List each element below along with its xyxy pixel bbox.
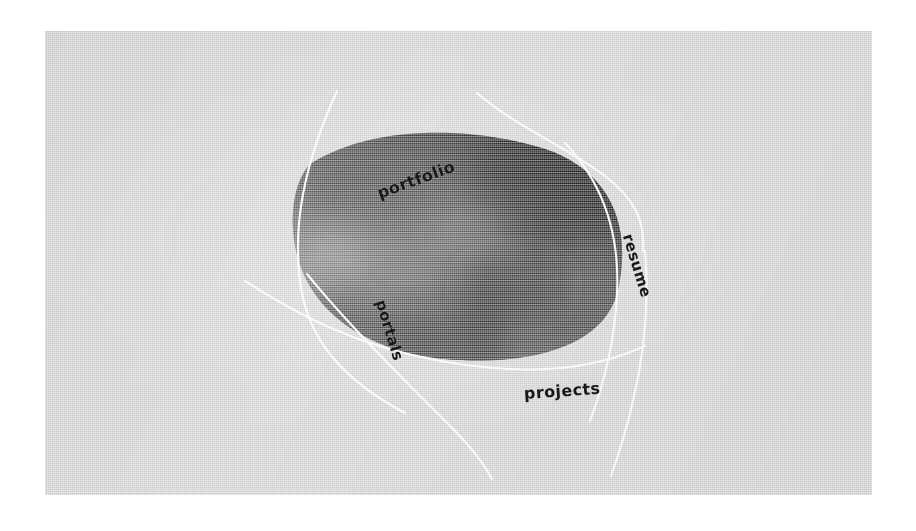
- artwork-canvas: portfolio resume portals projects: [45, 31, 872, 495]
- artwork-svg: [45, 31, 872, 495]
- photo-panel: [269, 111, 660, 381]
- page-root: portfolio resume portals projects: [0, 0, 916, 531]
